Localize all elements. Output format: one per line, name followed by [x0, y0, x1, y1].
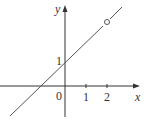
- y-axis-label: y: [54, 2, 61, 16]
- graph: y x 0 1 2 1: [0, 0, 146, 133]
- y-tick-1-label: 1: [56, 54, 62, 68]
- x-tick-1-label: 1: [83, 90, 89, 104]
- open-circle-hole: [105, 20, 110, 25]
- x-axis-arrow-icon: [133, 84, 140, 89]
- line-segment-right: [110, 7, 122, 19]
- y-axis-arrow-icon: [63, 5, 68, 12]
- origin-label: 0: [56, 89, 62, 103]
- x-axis-label: x: [134, 90, 141, 104]
- x-tick-2-label: 2: [104, 90, 110, 104]
